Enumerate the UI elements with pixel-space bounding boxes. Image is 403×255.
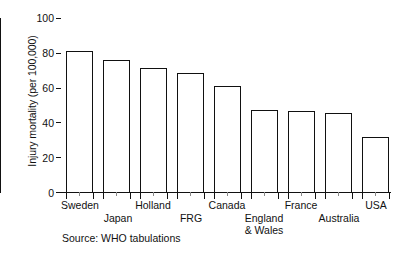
x-tick-major	[288, 192, 289, 199]
y-tick-mark-40	[56, 122, 61, 123]
bar-australia	[325, 113, 352, 192]
x-tick-major	[241, 192, 242, 199]
bar-england-wales	[251, 110, 278, 192]
x-tick-minor	[190, 192, 191, 196]
y-tick-label-60: 60	[14, 83, 54, 93]
y-tick-label-80: 80	[14, 48, 54, 58]
x-tick-minor	[264, 192, 265, 196]
bar-japan	[103, 60, 130, 192]
x-tick-minor	[338, 192, 339, 196]
x-label-frg: FRG	[161, 212, 221, 224]
x-tick-major	[315, 192, 316, 199]
x-tick-major	[352, 192, 353, 199]
x-label-canada: Canada	[196, 199, 258, 211]
x-tick-minor	[375, 192, 376, 196]
x-label-holland: Holland	[122, 199, 184, 211]
x-label-japan: Japan	[88, 212, 148, 224]
y-tick-mark-20	[56, 157, 61, 158]
x-tick-major	[66, 192, 67, 199]
y-tick-mark-100	[56, 18, 61, 19]
x-tick-major	[167, 192, 168, 199]
x-tick-major	[362, 192, 363, 199]
y-tick-label-40: 40	[14, 118, 54, 128]
x-label-usa: USA	[345, 199, 403, 211]
x-tick-minor	[79, 192, 80, 196]
bar-frg	[177, 73, 204, 192]
bar-canada	[214, 86, 241, 192]
x-tick-minor	[227, 192, 228, 196]
y-tick-label-0: 0	[14, 188, 54, 198]
x-tick-minor	[301, 192, 302, 196]
y-axis-title: Injury mortality (per 100,000)	[22, 6, 42, 196]
x-tick-major	[204, 192, 205, 199]
x-label-england: England	[234, 212, 294, 224]
x-tick-major	[93, 192, 94, 199]
x-tick-major	[214, 192, 215, 199]
x-tick-major	[389, 192, 390, 199]
bar-usa	[362, 137, 389, 192]
x-tick-minor	[116, 192, 117, 196]
x-label-wales: & Wales	[234, 224, 294, 236]
x-tick-major	[251, 192, 252, 199]
x-label-australia: Australia	[308, 212, 370, 224]
x-label-france: France	[270, 199, 332, 211]
y-tick-label-100: 100	[14, 13, 54, 23]
source-note: Source: WHO tabulations	[62, 232, 180, 244]
x-tick-major	[140, 192, 141, 199]
x-tick-major	[325, 192, 326, 199]
x-tick-major	[177, 192, 178, 199]
x-tick-major	[130, 192, 131, 199]
x-label-sweden: Sweden	[49, 199, 111, 211]
y-tick-mark-60	[56, 88, 61, 89]
bar-france	[288, 111, 315, 192]
x-tick-major	[278, 192, 279, 199]
bar-sweden	[66, 51, 93, 192]
injury-mortality-bar-chart: Injury mortality (per 100,000) 100 80 60…	[0, 0, 403, 255]
y-axis-line	[0, 18, 1, 193]
y-tick-mark-80	[56, 53, 61, 54]
x-tick-minor	[153, 192, 154, 196]
x-tick-major	[103, 192, 104, 199]
bar-holland	[140, 68, 167, 192]
y-tick-label-20: 20	[14, 153, 54, 163]
x-axis-line	[61, 192, 391, 193]
